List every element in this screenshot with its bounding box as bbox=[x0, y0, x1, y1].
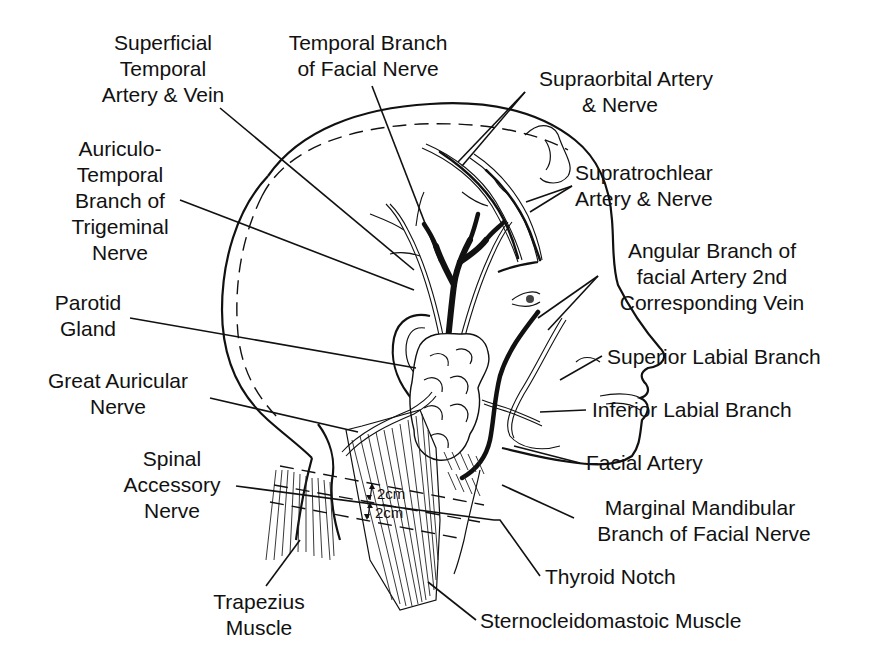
label-line: Temporal Branch bbox=[289, 31, 448, 54]
label-line: Muscle bbox=[226, 616, 293, 639]
label-line: Branch of Facial Nerve bbox=[597, 522, 811, 545]
label-superior-labial: Superior Labial Branch bbox=[607, 345, 821, 368]
label-line: Supraorbital Artery bbox=[539, 67, 713, 90]
label-line: Artery & Vein bbox=[102, 83, 225, 106]
label-line: of Facial Nerve bbox=[297, 57, 438, 80]
label-line: & Nerve bbox=[582, 93, 658, 116]
measurement-lower: 2cm bbox=[375, 504, 403, 521]
label-thyroid-notch: Thyroid Notch bbox=[545, 565, 676, 588]
label-line: Thyroid Notch bbox=[545, 565, 676, 588]
label-line: Facial Artery bbox=[586, 451, 703, 474]
label-line: Spinal bbox=[143, 447, 201, 470]
label-line: Angular Branch of bbox=[628, 239, 796, 262]
temporal-vessels bbox=[370, 192, 512, 340]
label-line: Superficial bbox=[114, 31, 212, 54]
label-line: Trigeminal bbox=[71, 215, 168, 238]
label-marginal-mandibular: Marginal Mandibular Branch of Facial Ner… bbox=[597, 496, 811, 545]
label-line: Artery & Nerve bbox=[575, 187, 713, 210]
label-line: Parotid bbox=[55, 291, 122, 314]
label-parotid-gland: Parotid Gland bbox=[55, 291, 122, 340]
label-line: Sternocleidomastoic Muscle bbox=[480, 609, 741, 632]
label-line: Temporal bbox=[77, 163, 163, 186]
anatomy-diagram: Superficial Temporal Artery & Vein Tempo… bbox=[0, 0, 884, 664]
label-line: Nerve bbox=[90, 395, 146, 418]
label-facial-artery: Facial Artery bbox=[586, 451, 703, 474]
parotid-gland bbox=[410, 334, 489, 461]
label-line: Temporal bbox=[120, 57, 206, 80]
label-line: Accessory bbox=[124, 473, 221, 496]
label-spinal-accessory: Spinal Accessory Nerve bbox=[124, 447, 221, 522]
label-great-auricular: Great Auricular Nerve bbox=[48, 369, 188, 418]
label-line: Trapezius bbox=[213, 590, 304, 613]
label-supraorbital: Supraorbital Artery & Nerve bbox=[539, 67, 713, 116]
label-trapezius: Trapezius Muscle bbox=[213, 590, 304, 639]
label-line: Nerve bbox=[144, 499, 200, 522]
label-auriculotemporal: Auriculo- Temporal Branch of Trigeminal … bbox=[71, 137, 168, 264]
label-supratrochlear: Supratrochlear Artery & Nerve bbox=[575, 161, 713, 210]
label-sternocleidomastoid: Sternocleidomastoic Muscle bbox=[480, 609, 741, 632]
label-line: Branch of bbox=[75, 189, 165, 212]
label-angular-branch: Angular Branch of facial Artery 2nd Corr… bbox=[620, 239, 804, 314]
label-inferior-labial: Inferior Labial Branch bbox=[592, 398, 792, 421]
label-line: Supratrochlear bbox=[575, 161, 713, 184]
label-line: Corresponding Vein bbox=[620, 291, 804, 314]
label-superficial-temporal: Superficial Temporal Artery & Vein bbox=[102, 31, 225, 106]
label-line: Superior Labial Branch bbox=[607, 345, 821, 368]
label-temporal-branch-facial-nerve: Temporal Branch of Facial Nerve bbox=[289, 31, 448, 80]
label-line: Gland bbox=[60, 317, 116, 340]
label-line: Nerve bbox=[92, 241, 148, 264]
label-line: facial Artery 2nd bbox=[637, 265, 788, 288]
label-line: Inferior Labial Branch bbox=[592, 398, 792, 421]
measurement-upper: 2cm bbox=[377, 485, 405, 502]
label-line: Auriculo- bbox=[79, 137, 162, 160]
label-line: Marginal Mandibular bbox=[605, 496, 795, 519]
label-line: Great Auricular bbox=[48, 369, 188, 392]
